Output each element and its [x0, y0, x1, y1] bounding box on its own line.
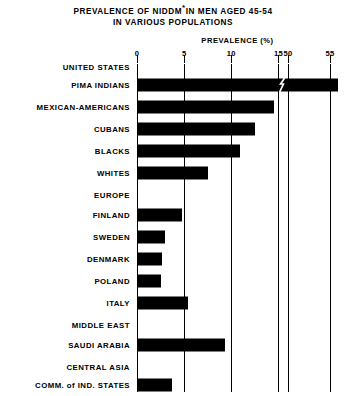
bar — [137, 253, 162, 266]
population-label: MEXICAN-AMERICANS — [37, 103, 130, 112]
population-label: POLAND — [94, 277, 130, 286]
chart-group-row: EUROPE — [0, 184, 346, 206]
plot-area: UNITED STATESPIMA INDIANSMEXICAN-AMERICA… — [0, 64, 346, 394]
population-label: COMM. of IND. STATES — [35, 381, 130, 390]
chart-title-line-1-post: IN MEN AGED 45-54 — [186, 7, 273, 16]
bar — [137, 101, 274, 114]
population-label: PIMA INDIANS — [71, 81, 130, 90]
chart-bar-row: MEXICAN-AMERICANS — [0, 96, 346, 118]
x-axis-title: PREVALENCE (%) — [137, 36, 338, 45]
chart-group-row: MIDDLE EAST — [0, 314, 346, 336]
chart-title-line-2: IN VARIOUS POPULATIONS — [0, 17, 346, 28]
population-label: WHITES — [97, 169, 130, 178]
chart-bar-row: COMM. of IND. STATES — [0, 374, 346, 396]
bar — [137, 379, 172, 392]
chart-title-line-1: PREVALENCE OF NIDDM*IN MEN AGED 45-54 — [0, 6, 346, 17]
region-group-label: MIDDLE EAST — [72, 321, 130, 330]
bar — [137, 339, 225, 352]
population-label: DENMARK — [87, 255, 130, 264]
bar — [137, 275, 161, 288]
population-label: CUBANS — [94, 125, 130, 134]
chart-bar-row: WHITES — [0, 162, 346, 184]
chart-bar-row: BLACKS — [0, 140, 346, 162]
chart-bar-row: POLAND — [0, 270, 346, 292]
region-group-label: CENTRAL ASIA — [66, 363, 130, 372]
chart-title: PREVALENCE OF NIDDM*IN MEN AGED 45-54 IN… — [0, 6, 346, 28]
axis-break-icon — [278, 78, 287, 92]
bar — [137, 123, 255, 136]
population-label: SWEDEN — [93, 233, 130, 242]
region-group-label: EUROPE — [94, 191, 130, 200]
population-label: FINLAND — [93, 211, 130, 220]
chart-bar-row: CUBANS — [0, 118, 346, 140]
bar — [137, 297, 188, 310]
population-label: SAUDI ARABIA — [68, 341, 130, 350]
population-label: BLACKS — [95, 147, 130, 156]
bar — [137, 79, 338, 92]
bar — [137, 209, 182, 222]
chart-bar-row: SAUDI ARABIA — [0, 334, 346, 356]
chart-bar-row: FINLAND — [0, 204, 346, 226]
bar — [137, 231, 165, 244]
bar — [137, 145, 240, 158]
chart-title-line-1-pre: PREVALENCE OF NIDDM — [73, 7, 182, 16]
chart-bar-row: ITALY — [0, 292, 346, 314]
bar — [137, 167, 208, 180]
chart-bar-row: SWEDEN — [0, 226, 346, 248]
population-label: ITALY — [107, 299, 130, 308]
chart-bar-row: PIMA INDIANS — [0, 74, 346, 96]
region-group-label: UNITED STATES — [63, 63, 130, 72]
chart-root: PREVALENCE OF NIDDM*IN MEN AGED 45-54 IN… — [0, 0, 346, 396]
chart-bar-row: DENMARK — [0, 248, 346, 270]
